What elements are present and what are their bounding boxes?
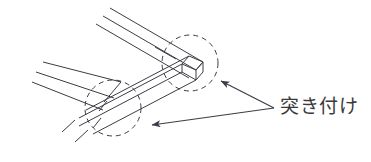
highlight-circles — [85, 35, 218, 136]
lower-member-tail-upper — [62, 120, 75, 132]
lower-member-line-top — [43, 62, 121, 82]
butt-cut-c — [93, 118, 101, 128]
butt-cut-a — [104, 82, 121, 102]
leader-arrows — [152, 81, 274, 125]
bent-member-body — [79, 56, 196, 134]
lower-member-tail-lower — [75, 130, 88, 142]
arrow-to-corner-joint — [221, 81, 274, 108]
upper-member-line-bottom — [96, 24, 189, 78]
bent-member-edge-lower — [93, 80, 196, 134]
joint-label: 突き付け — [280, 94, 358, 118]
lower-member-line-bottom — [32, 82, 103, 110]
lower-member-line-mid — [36, 72, 114, 98]
corner-block-bottom-front — [182, 72, 196, 80]
arrow-to-member-joint — [152, 108, 274, 125]
upper-right-member — [96, 8, 203, 78]
lower-left-member — [32, 62, 121, 142]
bent-member-edge-bottom — [79, 72, 182, 126]
figure-root: 突き付け — [0, 0, 371, 162]
upper-member-line-mid — [103, 16, 196, 70]
joint-diagram — [0, 0, 371, 162]
corner-block-end-face — [196, 62, 203, 80]
